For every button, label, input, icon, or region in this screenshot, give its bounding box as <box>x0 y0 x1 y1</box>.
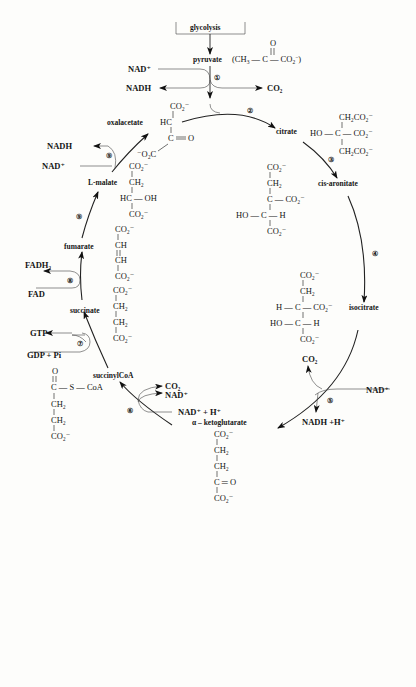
step5-nad: NAD⁺ <box>366 385 389 395</box>
step-8: FADH₂ FAD ⑧ <box>25 252 82 300</box>
svg-text:O: O <box>188 133 194 143</box>
svg-text:CH₂: CH₂ <box>300 286 315 296</box>
svg-text:CH₂: CH₂ <box>51 415 66 425</box>
step6-nad-h: NAD⁺ + H⁺ <box>178 407 221 417</box>
svg-text:CO₂⁻: CO₂⁻ <box>300 270 319 280</box>
step1-co2: CO₂ <box>267 83 283 93</box>
step-number-1: ① <box>214 74 220 81</box>
fumarate: fumarate CO₂⁻ CH CH CO₂⁻ <box>64 224 134 281</box>
step9-nadh: NADH <box>47 141 72 151</box>
svg-text:HO — C — CO₂⁻: HO — C — CO₂⁻ <box>310 128 373 138</box>
svg-text:CH₂: CH₂ <box>267 178 282 188</box>
pyruvate-formula: (CH3 — C — CO2−) <box>232 54 301 65</box>
step8-fadh2: FADH₂ <box>25 260 51 270</box>
step-number-4: ④ <box>372 250 378 257</box>
step-number-8: ⑧ <box>67 277 73 284</box>
step5-co2: CO₂ <box>302 354 318 364</box>
step5-nadh: NADH +H⁺ <box>302 417 345 427</box>
step-number-9b: ⑨ <box>106 152 112 159</box>
svg-text:CO₂⁻: CO₂⁻ <box>267 226 286 236</box>
pyruvate-label: pyruvate <box>193 55 222 64</box>
succinate: succinate CO₂⁻ CH₂ CH₂ CO₂⁻ <box>70 285 132 343</box>
pyruvate-carbonyl-o: O <box>270 38 276 48</box>
svg-text:HO — C — H: HO — C — H <box>270 318 320 328</box>
step-3: ③ <box>303 142 337 178</box>
step7-gdp: GDP + Pi <box>27 350 62 360</box>
svg-text:CH₂: CH₂ <box>51 399 66 409</box>
svg-text:C: C <box>168 133 174 143</box>
step-number-9a: ⑨ <box>76 213 82 220</box>
svg-text:C ═ O: C ═ O <box>214 477 236 487</box>
step-number-5: ⑤ <box>327 397 333 404</box>
svg-text:CO₂⁻: CO₂⁻ <box>113 285 132 295</box>
svg-text:HC — OH: HC — OH <box>120 193 157 203</box>
succinylCoA-label: succinylCoA <box>93 371 134 380</box>
alpha-ketoglutarate-label: α – ketoglutarate <box>192 418 247 427</box>
step-9-hydration: ⑨ <box>76 192 98 238</box>
malate: L-malate CO₂⁻ CH₂ HC — OH CO₂⁻ <box>88 161 157 219</box>
step-4: ④ <box>348 196 378 302</box>
svg-text:HO — C — H: HO — C — H <box>236 210 286 220</box>
svg-text:CO₂⁻: CO₂⁻ <box>115 271 134 281</box>
isocitrate-label: isocitrate <box>349 303 379 312</box>
svg-text:CO₂⁻: CO₂⁻ <box>267 162 286 172</box>
step1-nad: NAD⁺ <box>128 64 151 74</box>
step-number-7: ⑦ <box>77 340 83 347</box>
svg-text:CH₂: CH₂ <box>214 461 229 471</box>
svg-text:HC: HC <box>160 117 172 127</box>
pyruvate: pyruvate (CH3 — C — CO2−) O <box>193 38 301 65</box>
step-number-6: ⑥ <box>127 407 133 414</box>
svg-text:CH₂: CH₂ <box>214 445 229 455</box>
isocitrate: isocitrate CO₂⁻ CH₂ H — C — CO₂⁻ HO — C … <box>270 270 379 344</box>
svg-text:CO₂⁻: CO₂⁻ <box>170 101 189 111</box>
malate-label: L-malate <box>88 178 118 187</box>
svg-text:CO₂⁻: CO₂⁻ <box>214 429 233 439</box>
citrate: citrate CH₂CO₂⁻ HO — C — CO₂⁻ CH₂CO₂⁻ <box>276 112 373 156</box>
svg-text:CO₂⁻: CO₂⁻ <box>214 493 233 503</box>
svg-text:CH: CH <box>115 255 127 265</box>
step-number-2: ② <box>247 107 253 114</box>
svg-text:CH: CH <box>115 240 127 250</box>
svg-text:CO₂⁻: CO₂⁻ <box>129 161 148 171</box>
succinate-label: succinate <box>70 306 100 315</box>
svg-text:CO₂⁻: CO₂⁻ <box>51 431 70 441</box>
step-number-3: ③ <box>328 156 334 163</box>
step-5: CO₂ NAD⁺ NADH +H⁺ ⑤ <box>278 330 390 428</box>
svg-text:CH₂CO₂⁻: CH₂CO₂⁻ <box>339 112 373 122</box>
step1-nadh: NADH <box>126 83 151 93</box>
svg-text:C — S — CoA: C — S — CoA <box>51 382 104 392</box>
step6-nad: NAD⁺ <box>165 390 188 400</box>
cis-aconitate: cis-aronitate CO₂⁻ CH₂ C — CO₂⁻ HO — C —… <box>236 162 359 236</box>
svg-text:⁻O₂C: ⁻O₂C <box>137 149 157 159</box>
glycolysis-box: glycolysis <box>176 22 245 34</box>
svg-text:CH₂: CH₂ <box>113 301 128 311</box>
oxalacetate: oxalacetate CO₂⁻ HC C O ⁻O₂C <box>107 101 194 159</box>
succinylCoA: succinylCoA O C — S — CoA CH₂ CH₂ CO₂⁻ <box>51 366 134 441</box>
alpha-ketoglutarate: α – ketoglutarate CO₂⁻ CH₂ CH₂ C ═ O CO₂… <box>192 418 247 503</box>
svg-text:CH₂: CH₂ <box>129 177 144 187</box>
glycolysis-label: glycolysis <box>190 23 220 32</box>
step-2: ② <box>182 104 275 128</box>
citrate-label: citrate <box>276 127 297 136</box>
svg-text:CO₂⁻: CO₂⁻ <box>113 333 132 343</box>
step7-gtp: GTP <box>30 328 47 338</box>
svg-text:CO₂⁻: CO₂⁻ <box>300 334 319 344</box>
fumarate-label: fumarate <box>64 242 94 251</box>
svg-text:C — CO₂⁻: C — CO₂⁻ <box>267 194 305 204</box>
svg-text:CH₂: CH₂ <box>113 317 128 327</box>
svg-text:H — C — CO₂⁻: H — C — CO₂⁻ <box>276 302 333 312</box>
step-7: GTP GDP + Pi ⑦ <box>27 312 108 368</box>
oxalacetate-label: oxalacetate <box>107 118 143 127</box>
svg-text:CO₂⁻: CO₂⁻ <box>129 209 148 219</box>
step9-nad: NAD⁺ <box>42 161 65 171</box>
step8-fad: FAD <box>28 289 45 299</box>
citric-acid-cycle-diagram: glycolysis pyruvate (CH3 — C — CO2−) O N… <box>0 0 416 687</box>
svg-text:O: O <box>52 366 58 376</box>
cis-aconitate-label: cis-aronitate <box>318 179 359 188</box>
svg-text:CO₂⁻: CO₂⁻ <box>115 224 134 234</box>
svg-text:CH₂CO₂⁻: CH₂CO₂⁻ <box>339 146 373 156</box>
step-1: NAD⁺ NADH CO₂ ① <box>126 64 283 98</box>
